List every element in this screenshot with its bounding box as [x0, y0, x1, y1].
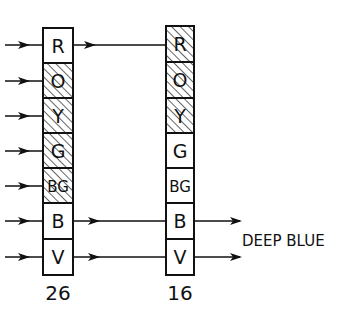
left-label-b: B	[51, 210, 64, 232]
right-label-y: Y	[173, 105, 186, 127]
left-label-bg: BG	[47, 178, 69, 196]
right-label-v: V	[174, 246, 187, 268]
output-arrows	[194, 221, 240, 257]
left-label-v: V	[52, 246, 65, 268]
left-label-r: R	[51, 35, 64, 57]
connecting-lines	[73, 45, 166, 257]
left-label-o: O	[51, 70, 66, 92]
left-count: 26	[45, 281, 70, 305]
right-label-bg: BG	[169, 178, 191, 196]
left-label-g: G	[51, 140, 66, 162]
left-label-y: Y	[51, 105, 64, 127]
right-label-o: O	[173, 69, 188, 91]
right-label-b: B	[173, 210, 186, 232]
right-label-r: R	[173, 33, 186, 55]
output-label: DEEP BLUE	[242, 232, 325, 250]
connector-arrowheads	[84, 41, 100, 261]
right-count: 16	[167, 281, 192, 305]
output-arrowheads	[230, 217, 242, 261]
right-label-g: G	[173, 140, 188, 162]
color-filter-diagram: R O Y G BG B V 26	[0, 0, 349, 321]
